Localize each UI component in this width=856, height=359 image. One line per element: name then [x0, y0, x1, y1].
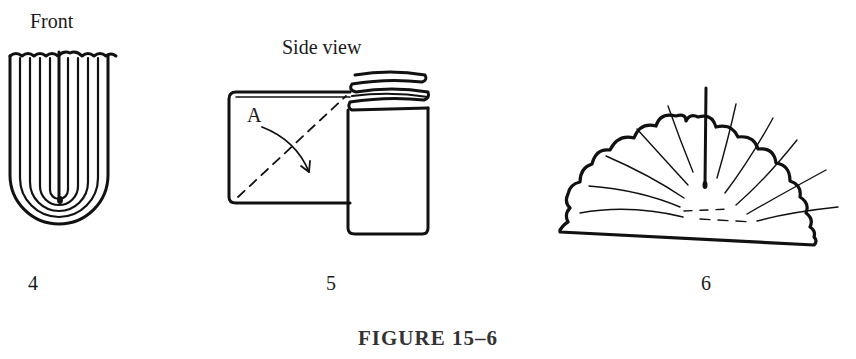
figure-drawings: [0, 0, 856, 359]
panel-4-drawing: [10, 52, 116, 224]
panel-5-drawing: [229, 72, 429, 234]
panel-5-number: 5: [326, 272, 336, 295]
panel-6-drawing: [560, 88, 838, 245]
panel-6-number: 6: [701, 272, 711, 295]
panel-4-number: 4: [28, 272, 38, 295]
figure-caption: FIGURE 15–6: [0, 326, 856, 351]
